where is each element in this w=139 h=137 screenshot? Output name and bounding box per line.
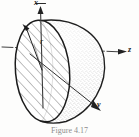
hemisphere-figure: x z y r Figure 4.17 (0, 0, 139, 137)
axis-label-z: z (128, 46, 131, 54)
figure-caption: Figure 4.17 (0, 127, 139, 137)
axis-label-x: x (34, 0, 38, 7)
hemisphere-diagram-canvas (0, 0, 139, 137)
radius-label: r (40, 38, 43, 46)
axis-label-y: y (97, 101, 101, 109)
